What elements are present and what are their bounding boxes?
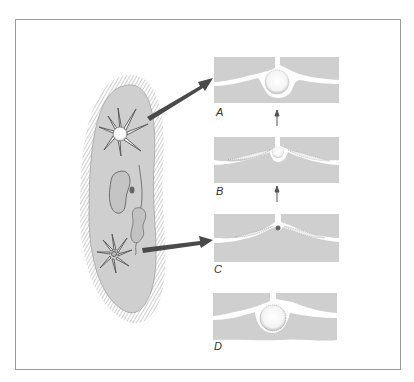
paramecium-body	[80, 75, 165, 324]
panel-label-b: B	[216, 185, 223, 197]
panel-a	[214, 57, 339, 103]
panel-b	[214, 137, 339, 183]
panel-label-c: C	[214, 263, 222, 275]
paramecium-diagram	[0, 0, 414, 382]
panel-d	[213, 293, 337, 341]
micronucleus	[130, 187, 135, 194]
panel-label-d: D	[214, 340, 222, 352]
panel-label-a: A	[216, 106, 223, 118]
panel-c	[214, 214, 339, 262]
